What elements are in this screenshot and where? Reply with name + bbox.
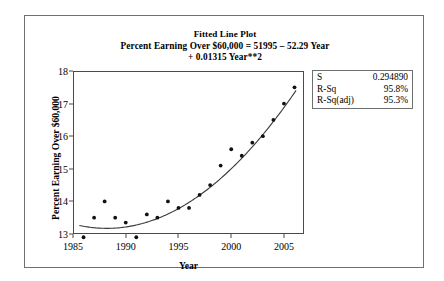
figure-frame: Fitted Line Plot Percent Earning Over $6…	[24, 15, 424, 268]
chart-title: Fitted Line Plot Percent Earning Over $6…	[25, 29, 425, 64]
data-point	[145, 213, 149, 217]
data-point	[82, 235, 86, 239]
stat-row: S 0.294890	[313, 72, 412, 84]
y-tick-mark-17	[69, 103, 73, 104]
y-tick-label-15: 15	[58, 163, 68, 174]
chart-title-line-1: Fitted Line Plot	[25, 29, 425, 41]
x-tick-label-1995: 1995	[168, 241, 188, 252]
x-tick-mark-1990	[125, 234, 126, 238]
data-point	[92, 216, 96, 220]
x-tick-mark-2000	[231, 234, 232, 238]
data-point	[155, 216, 159, 220]
plot-canvas	[73, 71, 304, 234]
x-tick-label-2005: 2005	[274, 241, 294, 252]
data-point	[177, 206, 181, 210]
data-point	[134, 235, 138, 239]
x-tick-mark-2005	[283, 234, 284, 238]
data-point	[240, 154, 244, 158]
y-tick-label-17: 17	[58, 98, 68, 109]
stat-key: R-Sq(adj)	[317, 95, 354, 107]
chart-title-line-3: + 0.01315 Year**2	[25, 52, 425, 64]
stat-row: R-Sq(adj) 95.3%	[313, 95, 412, 107]
y-tick-label-13: 13	[58, 229, 68, 240]
data-point	[113, 216, 117, 220]
data-point	[293, 85, 297, 89]
data-point	[198, 193, 202, 197]
data-point	[166, 200, 170, 204]
stat-key: R-Sq	[317, 84, 336, 96]
y-tick-label-16: 16	[58, 131, 68, 142]
x-axis-title: Year	[25, 260, 352, 271]
stat-key: S	[317, 72, 322, 84]
data-point	[250, 141, 254, 145]
data-point	[124, 221, 128, 225]
data-point	[282, 102, 286, 106]
x-tick-label-1985: 1985	[63, 241, 83, 252]
y-tick-mark-15	[69, 168, 73, 169]
x-tick-label-2000: 2000	[221, 241, 241, 252]
data-point-layer	[82, 85, 297, 239]
y-tick-mark-18	[69, 71, 73, 72]
x-tick-label-1990: 1990	[116, 241, 136, 252]
stat-value: 95.8%	[384, 84, 408, 96]
data-point	[187, 206, 191, 210]
data-point	[272, 118, 276, 122]
data-point	[229, 147, 233, 151]
stat-value: 95.3%	[384, 95, 408, 107]
y-tick-label-14: 14	[58, 196, 68, 207]
x-tick-mark-1995	[178, 234, 179, 238]
y-tick-mark-14	[69, 201, 73, 202]
stat-value: 0.294890	[373, 72, 408, 84]
data-point	[103, 200, 107, 204]
data-point	[208, 183, 212, 187]
data-point	[261, 134, 265, 138]
x-tick-mark-1985	[73, 234, 74, 238]
y-tick-label-18: 18	[58, 66, 68, 77]
stat-row: R-Sq 95.8%	[313, 84, 412, 96]
statistics-box: S 0.294890 R-Sq 95.8% R-Sq(adj) 95.3%	[312, 70, 413, 109]
chart-title-line-2: Percent Earning Over $60,000 = 51995 – 5…	[25, 41, 425, 53]
data-point	[219, 164, 223, 168]
y-tick-mark-16	[69, 136, 73, 137]
plot-area: 131415161718 19851990199520002005	[73, 71, 304, 234]
